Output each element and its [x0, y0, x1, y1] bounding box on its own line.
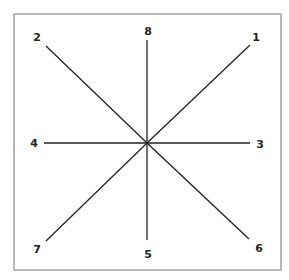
- ray-line-7: [46, 143, 147, 241]
- ray-line-1: [147, 45, 250, 143]
- ray-line-2: [46, 46, 147, 143]
- ray-label-3: 3: [256, 138, 264, 151]
- ray-label-2: 2: [33, 31, 41, 44]
- ray-line-6: [147, 143, 249, 239]
- ray-label-5: 5: [144, 248, 152, 261]
- ray-label-7: 7: [33, 243, 41, 256]
- direction-diagram: 12345678: [0, 0, 289, 280]
- ray-label-1: 1: [252, 31, 260, 44]
- ray-label-6: 6: [255, 242, 263, 255]
- ray-label-4: 4: [30, 137, 38, 150]
- ray-label-8: 8: [144, 25, 152, 38]
